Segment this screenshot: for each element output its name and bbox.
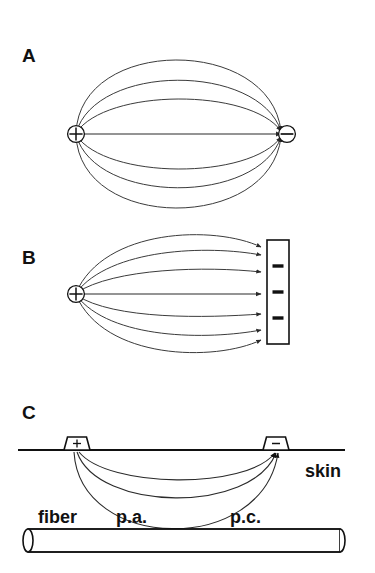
panel-b-letter: B: [22, 247, 36, 268]
figure-background: [0, 0, 375, 573]
label-physiological-cathode: p.c.: [230, 507, 261, 527]
label-skin: skin: [305, 461, 341, 481]
plate-electrode: [267, 240, 289, 344]
circled-plus-icon: [68, 126, 85, 143]
panel-c-letter: C: [22, 402, 36, 423]
panel-a-letter: A: [22, 45, 36, 66]
circled-minus-icon: [279, 126, 296, 143]
scientific-figure: A: [0, 0, 375, 573]
label-physiological-anode: p.a.: [116, 507, 147, 527]
surface-cathode-electrode: [263, 437, 289, 450]
label-fiber: fiber: [38, 507, 77, 527]
figure-root: A: [0, 0, 375, 573]
surface-anode-electrode: [64, 437, 90, 450]
nerve-fiber-cylinder-icon: [23, 529, 345, 552]
circled-plus-icon: [68, 286, 85, 303]
